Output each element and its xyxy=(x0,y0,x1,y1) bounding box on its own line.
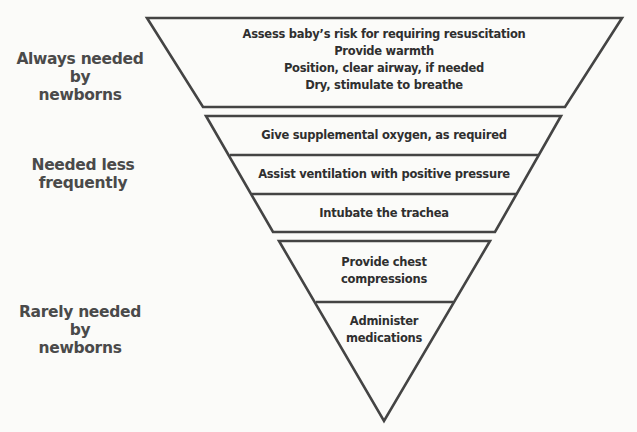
label-line: Rarely needed by xyxy=(10,303,150,339)
step-administer-medications: Administer medications xyxy=(346,313,422,347)
step-line: Intubate the trachea xyxy=(319,205,448,222)
resuscitation-pyramid-diagram: Always needed by newborns Needed less fr… xyxy=(0,0,637,432)
label-line: newborns xyxy=(10,339,150,357)
step-line: Give supplemental oxygen, as required xyxy=(261,127,506,144)
step-line-position-airway: Position, clear airway, if needed xyxy=(243,60,526,77)
label-line: newborns xyxy=(10,86,150,104)
step-initial-steps: Assess baby’s risk for requiring resusci… xyxy=(243,26,526,94)
step-line: Assist ventilation with positive pressur… xyxy=(258,166,510,183)
label-rarely-needed: Rarely needed by newborns xyxy=(10,303,150,357)
step-line: compressions xyxy=(341,271,427,288)
label-line: Always needed by xyxy=(10,50,150,86)
step-line: medications xyxy=(346,330,422,347)
label-line: Needed less xyxy=(18,156,148,174)
step-line-provide-warmth: Provide warmth xyxy=(243,43,526,60)
step-intubate-trachea: Intubate the trachea xyxy=(319,205,448,222)
label-always-needed: Always needed by newborns xyxy=(10,50,150,104)
step-line-dry-stimulate: Dry, stimulate to breathe xyxy=(243,77,526,94)
step-line: Provide chest xyxy=(341,254,427,271)
step-line-assess-risk: Assess baby’s risk for requiring resusci… xyxy=(243,26,526,43)
step-assist-ventilation: Assist ventilation with positive pressur… xyxy=(258,166,510,183)
label-needed-less-frequently: Needed less frequently xyxy=(18,156,148,192)
step-supplemental-oxygen: Give supplemental oxygen, as required xyxy=(261,127,506,144)
step-chest-compressions: Provide chest compressions xyxy=(341,254,427,288)
step-line: Administer xyxy=(346,313,422,330)
label-line: frequently xyxy=(18,174,148,192)
